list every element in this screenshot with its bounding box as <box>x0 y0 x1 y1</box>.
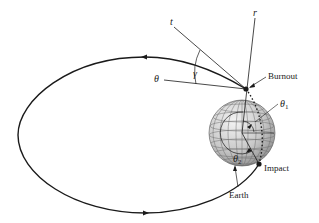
orbit-arrow-top <box>141 55 147 60</box>
label-r: r <box>253 7 257 18</box>
label-theta1: θ1 <box>280 98 289 111</box>
burnout-leader-arrow <box>249 83 255 88</box>
label-burnout: Burnout <box>268 71 298 81</box>
label-earth: Earth <box>229 190 249 200</box>
label-impact: Impact <box>264 163 289 173</box>
label-t: t <box>170 16 173 27</box>
impact-point <box>256 161 261 166</box>
tangent-line <box>174 27 246 89</box>
orbit-arrow-bottom <box>143 211 149 216</box>
earth-leader-arrow <box>233 165 237 171</box>
trajectory-diagram: t r θ γ Burnout θ1 θ2 Impact Earth <box>0 0 319 223</box>
label-gamma: γ <box>193 68 198 79</box>
burnout-point <box>243 86 248 91</box>
label-theta: θ <box>154 73 159 84</box>
